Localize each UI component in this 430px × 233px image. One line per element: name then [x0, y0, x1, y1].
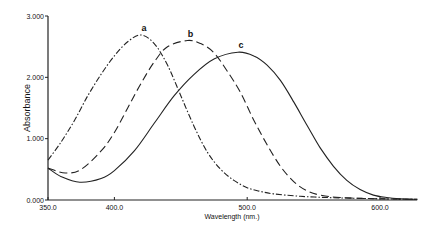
chart-svg: 0.0001.0002.0003.000350.0400.0500.0600.0…: [0, 0, 430, 233]
axes: 0.0001.0002.0003.000350.0400.0500.0600.0: [26, 13, 417, 212]
x-tick-label: 600.0: [371, 204, 389, 211]
y-tick-label: 0.000: [26, 197, 44, 204]
y-axis-label: Absorbance: [22, 84, 32, 132]
x-tick-label: 350.0: [39, 204, 57, 211]
x-axis-label: Wavelength (nm.): [205, 213, 260, 221]
y-tick-label: 1.000: [26, 135, 44, 142]
y-tick-label: 2.000: [26, 74, 44, 81]
absorbance-spectrum-chart: 0.0001.0002.0003.000350.0400.0500.0600.0…: [0, 0, 430, 233]
curves: [48, 35, 417, 199]
series-a-line: [48, 35, 417, 199]
series-a-label: a: [141, 23, 147, 33]
series-c-label: c: [238, 40, 243, 50]
x-tick-label: 500.0: [238, 204, 256, 211]
series-b-line: [48, 40, 417, 199]
series-c-line: [48, 52, 417, 199]
x-tick-label: 400.0: [106, 204, 124, 211]
series-b-label: b: [188, 29, 194, 39]
y-tick-label: 3.000: [26, 13, 44, 20]
